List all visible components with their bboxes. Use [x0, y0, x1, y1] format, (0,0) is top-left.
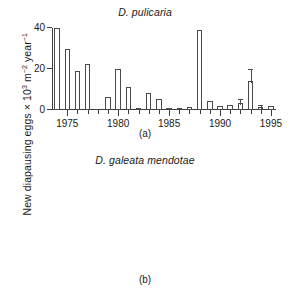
x-tick: [220, 110, 221, 116]
panel-a: D. pulicaria 0204019751980198519901995 (…: [0, 0, 290, 146]
x-tick: [108, 110, 109, 114]
panel-b: D. galeata mendotae 02419751980198519901…: [0, 146, 290, 292]
bar: [136, 108, 142, 110]
panel-a-label: (a): [0, 128, 290, 139]
y-tick: [47, 27, 52, 28]
x-tick: [149, 110, 150, 114]
y-tick-label: 20: [34, 68, 45, 69]
x-tick: [179, 110, 180, 114]
error-bar: [240, 100, 241, 105]
error-bar: [251, 70, 252, 83]
x-tick: [159, 110, 160, 114]
error-bar: [261, 106, 262, 109]
bar: [65, 49, 71, 111]
y-tick-label: 40: [34, 27, 45, 28]
bar: [187, 107, 193, 110]
bar: [248, 81, 254, 110]
bar: [126, 87, 132, 110]
x-tick: [271, 110, 272, 116]
bar: [75, 71, 81, 110]
bar: [54, 28, 60, 110]
x-tick: [118, 110, 119, 116]
panel-a-y-axis: [52, 28, 53, 110]
y-tick: [47, 109, 52, 110]
y-tick-label: 0: [39, 109, 45, 110]
panel-b-label: (b): [0, 274, 290, 285]
y-tick: [47, 68, 52, 69]
x-tick: [98, 110, 99, 114]
x-tick: [261, 110, 262, 114]
figure-container: New diapausing eggs × 103 m−2 year−1 D. …: [0, 0, 290, 292]
bar: [177, 108, 183, 110]
x-tick: [189, 110, 190, 114]
bar: [207, 101, 213, 110]
error-bar-cap: [248, 69, 253, 70]
panel-a-plot-area: 0204019751980198519901995: [52, 28, 276, 110]
bar: [197, 30, 203, 110]
panel-b-title: D. galeata mendotae: [0, 154, 290, 166]
x-tick: [230, 110, 231, 114]
x-tick: [169, 110, 170, 116]
bar: [85, 64, 91, 110]
x-tick: [67, 110, 68, 116]
x-tick: [88, 110, 89, 114]
x-tick: [251, 110, 252, 114]
x-tick: [200, 110, 201, 114]
x-tick: [139, 110, 140, 114]
bar: [217, 106, 223, 111]
x-tick: [210, 110, 211, 114]
bar: [166, 108, 172, 110]
bar: [268, 106, 274, 111]
x-tick: [77, 110, 78, 114]
bar: [115, 69, 121, 110]
x-tick: [128, 110, 129, 114]
error-bar-cap: [238, 99, 243, 100]
bar: [227, 105, 233, 110]
error-bar-cap: [258, 105, 263, 106]
bar: [156, 99, 162, 110]
bar: [105, 97, 111, 110]
x-tick: [240, 110, 241, 114]
panel-a-title: D. pulicaria: [0, 6, 290, 18]
bar: [146, 93, 152, 110]
